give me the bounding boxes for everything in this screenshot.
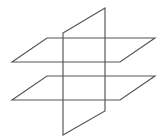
vertical-plane (63, 8, 105, 135)
upper-horizontal-plane (12, 38, 155, 62)
geometry-figure (0, 0, 164, 136)
lower-horizontal-plane (12, 76, 155, 100)
planes-diagram-canvas (0, 0, 164, 136)
